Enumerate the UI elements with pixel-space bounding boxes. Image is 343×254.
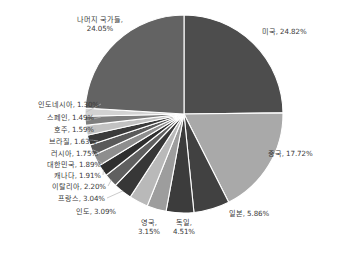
slice-label-canada: 캐나다, 1.91%: [12, 172, 101, 181]
slice-label-brazil: 브라질, 1.63%: [10, 138, 96, 147]
slice-label-korea: 대한민국, 1.89%: [5, 161, 101, 170]
slice-label-russia: 러시아, 1.75%: [10, 150, 98, 159]
pie-chart: 미국 24.82%중국 17.72%일본 5.86%독일 4.51%영국 3.1…: [0, 0, 343, 254]
slice-label-others: 나머지 국가들, 24.05%: [52, 16, 148, 33]
slice-label-china: 중국, 17.72%: [268, 150, 343, 159]
slice-label-india: 인도, 3.09%: [36, 208, 116, 217]
slice-label-spain: 스페인, 1.49%: [8, 114, 94, 123]
slice-label-us: 미국, 24.82%: [262, 28, 342, 37]
slice-label-indonesia: 인도네시아, 1.30%: [1, 101, 99, 110]
pie-slices-group: 미국 24.82%중국 17.72%일본 5.86%독일 4.51%영국 3.1…: [85, 15, 283, 213]
leader-line-7: [108, 180, 111, 186]
slice-label-uk: 영국, 3.15%: [128, 219, 170, 236]
slice-label-france: 프랑스, 3.04%: [23, 195, 105, 204]
slice-label-italy: 이탈리아, 2.20%: [14, 183, 106, 192]
leader-line-6: [107, 191, 123, 198]
slice-label-japan: 일본, 5.86%: [229, 210, 299, 219]
slice-label-australia: 호주, 1.59%: [14, 126, 94, 135]
